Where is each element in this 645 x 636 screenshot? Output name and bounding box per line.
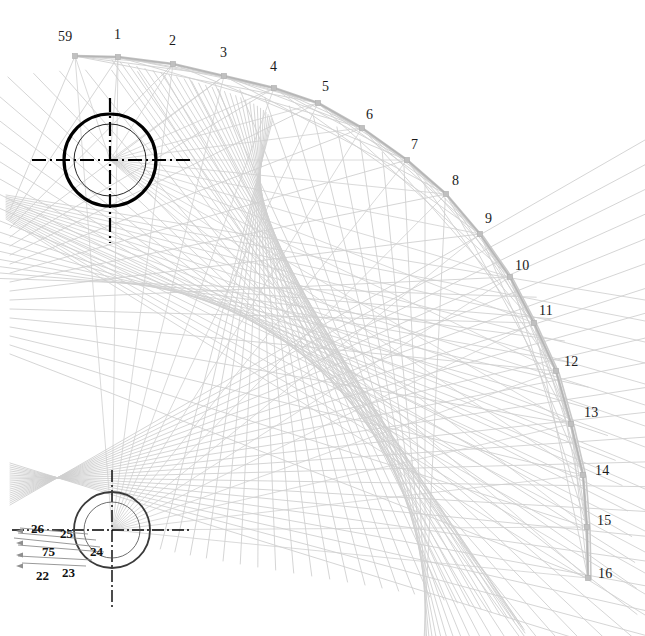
node-marker [584,524,589,529]
web-line [10,477,645,487]
node-marker [477,231,482,236]
diagram-canvas: 5912345678910111213141516 262575242223 [0,0,645,636]
web-line [6,198,645,342]
web-line [10,336,583,475]
web-line [112,60,524,636]
web-line [6,209,645,489]
node-marker [404,157,409,162]
node-label-1: 1 [114,28,121,42]
node-marker [315,100,320,105]
node-label-59: 59 [58,30,72,44]
web-chord [407,160,556,371]
web-line [10,264,645,495]
web-line [6,195,645,300]
leader-line [18,556,92,560]
node-marker [115,54,120,59]
node-label-9: 9 [485,212,492,226]
node-marker [359,125,364,130]
web-line [212,87,430,597]
node-marker [585,575,590,580]
web-line [10,140,645,505]
technical-drawing-svg [0,0,645,636]
node-label-8: 8 [452,174,459,188]
node-marker [221,73,226,78]
detail-label-26: 26 [31,522,44,535]
node-marker [531,320,536,325]
web-hub-ray [112,424,571,530]
node-marker [568,421,573,426]
node-label-2: 2 [169,34,176,48]
web-chord [274,88,407,160]
linkage-rail [483,236,591,580]
detail-label-23: 23 [62,566,75,579]
node-label-10: 10 [515,259,529,273]
node-label-14: 14 [595,464,609,478]
detail-label-24: 24 [90,545,103,558]
node-marker [271,85,276,90]
node-marker [170,61,175,66]
node-label-13: 13 [584,406,598,420]
node-label-4: 4 [270,60,277,74]
leader-arrowhead [16,564,23,569]
node-label-16: 16 [598,567,612,581]
web-line [6,217,645,594]
web-line [10,467,645,610]
node-label-3: 3 [220,46,227,60]
web-hub-ray [112,475,583,530]
web-line [10,471,645,561]
leader-arrowhead [16,553,23,558]
detail-label-75: 75 [42,545,55,558]
node-marker [580,472,585,477]
node-label-6: 6 [366,108,373,122]
web-hub-ray [110,160,587,527]
detail-label-22: 22 [36,569,49,582]
node-label-15: 15 [597,514,611,528]
detail-label-25: 25 [60,527,73,540]
node-label-5: 5 [322,80,329,94]
web-chord [274,88,362,128]
node-marker [72,53,77,58]
leader-line [22,563,86,566]
web-line [6,208,645,468]
node-marker [507,274,512,279]
node-label-7: 7 [411,138,418,152]
node-label-12: 12 [564,355,578,369]
node-marker [553,368,558,373]
web-hub-ray [112,530,588,578]
node-label-11: 11 [539,304,553,318]
web-hub-ray [110,160,510,277]
web-hub-ray [112,64,173,530]
web-hub-ray [112,371,556,530]
node-marker [443,191,448,196]
